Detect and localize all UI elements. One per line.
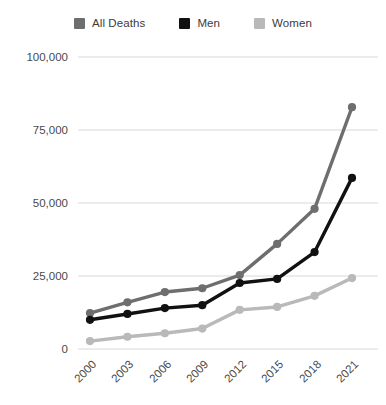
data-point (86, 316, 94, 324)
y-axis-tick-label: 100,000 (0, 51, 68, 63)
data-point (161, 329, 169, 337)
data-point (236, 271, 244, 279)
y-axis-tick-label: 25,000 (0, 270, 68, 282)
data-point (123, 333, 131, 341)
data-point (198, 284, 206, 292)
data-point (273, 303, 281, 311)
data-point (310, 292, 318, 300)
data-point (348, 103, 356, 111)
data-point (86, 337, 94, 345)
data-point (198, 301, 206, 309)
data-point (310, 248, 318, 256)
data-point (348, 174, 356, 182)
data-point (198, 324, 206, 332)
data-point (348, 274, 356, 282)
data-point (273, 275, 281, 283)
data-point (161, 304, 169, 312)
y-axis-tick-label: 75,000 (0, 124, 68, 136)
chart-container: All Deaths Men Women 100,00075,00050,000… (0, 0, 386, 405)
y-axis-tick-label: 0 (0, 343, 68, 355)
data-point (236, 306, 244, 314)
data-point (123, 298, 131, 306)
data-point (273, 240, 281, 248)
data-point (161, 288, 169, 296)
data-point (123, 310, 131, 318)
data-point (236, 279, 244, 287)
plot-area: 100,00075,00050,00025,0000 2000200320062… (0, 0, 386, 405)
series-line (90, 278, 352, 341)
data-point (310, 205, 318, 213)
y-axis-tick-label: 50,000 (0, 197, 68, 209)
